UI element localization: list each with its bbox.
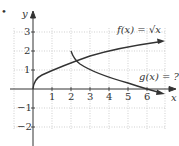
svg-text:1: 1	[24, 64, 30, 75]
svg-text:5: 5	[125, 91, 131, 102]
g-arrow-icon	[156, 90, 165, 96]
svg-text:−1: −1	[17, 102, 32, 113]
svg-text:−2: −2	[17, 121, 32, 132]
f-arrow-icon	[157, 39, 165, 45]
svg-text:1: 1	[49, 91, 55, 102]
x-axis-arrow-icon	[169, 87, 176, 92]
g-label: g(x) = ?	[139, 71, 179, 82]
svg-text:3: 3	[87, 91, 93, 102]
f-label: f(x) = √x	[116, 24, 161, 35]
svg-text:3: 3	[24, 26, 30, 37]
y-tick-labels: 3 2 1 −1 −2	[17, 26, 32, 132]
svg-text:2: 2	[24, 45, 30, 56]
svg-text:4: 4	[106, 91, 112, 102]
bullet: •	[1, 6, 7, 17]
x-tick-labels: 1 2 3 4 5 6	[49, 91, 150, 102]
x-axis-label: x	[171, 92, 177, 103]
y-axis-arrow-icon	[31, 11, 36, 18]
function-graph: • y x f(x) = √x g(x) = ? 1 2 3 4 5 6 3 2…	[0, 0, 179, 146]
svg-text:6: 6	[144, 91, 150, 102]
y-axis-label: y	[21, 8, 28, 19]
svg-text:2: 2	[68, 91, 74, 102]
